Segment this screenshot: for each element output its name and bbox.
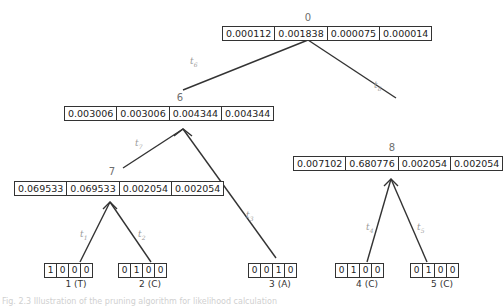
tip-5-value-A: 0 xyxy=(411,264,422,277)
node-6-value-A: 0.003006 xyxy=(65,107,116,120)
tip-4-value-A: 0 xyxy=(336,264,347,277)
tip-3-value-A: 0 xyxy=(249,264,260,277)
node-7-vector: 0.069533 0.069533 0.002054 0.002054 xyxy=(14,181,224,196)
tip-5-value-G: 0 xyxy=(434,264,446,277)
edge-label-t5: t5 xyxy=(417,222,424,234)
tip-3-value-C: 0 xyxy=(260,264,272,277)
figure-caption: Fig. 2.3 Illustration of the pruning alg… xyxy=(2,297,277,306)
edge-8-5 xyxy=(391,179,427,262)
tip-4-label: 4 (C) xyxy=(347,279,387,289)
edge-0-6 xyxy=(183,40,308,90)
tip-3-value-G: 1 xyxy=(272,264,284,277)
edge-label-t1: t1 xyxy=(80,229,87,241)
tip-1-value-C: 0 xyxy=(56,264,68,277)
tip-2-value-C: 1 xyxy=(130,264,142,277)
tip-3-vector: 0 0 1 0 xyxy=(248,263,297,278)
tip-1-value-G: 0 xyxy=(68,264,80,277)
tip-2-label: 2 (C) xyxy=(130,279,170,289)
tip-1-value-T: 0 xyxy=(80,264,92,277)
tip-2-value-T: 0 xyxy=(154,264,166,277)
node-0-value-C: 0.001838 xyxy=(274,27,326,40)
tip-4-vector: 0 1 0 0 xyxy=(335,263,384,278)
node-7-value-G: 0.002054 xyxy=(119,182,171,195)
edge-label-t8: t8 xyxy=(374,80,381,92)
tip-1-vector: 1 0 0 0 xyxy=(44,263,93,278)
node-8-vector: 0.007102 0.680776 0.002054 0.002054 xyxy=(293,156,503,171)
node-0-label: 0 xyxy=(298,12,318,23)
node-6-value-G: 0.004344 xyxy=(169,107,221,120)
node-0-value-A: 0.000112 xyxy=(223,27,274,40)
edge-label-t6: t6 xyxy=(190,56,197,68)
tip-4-value-C: 1 xyxy=(347,264,359,277)
node-8-value-C: 0.680776 xyxy=(345,157,397,170)
tip-5-value-C: 1 xyxy=(422,264,434,277)
tip-2-value-G: 0 xyxy=(142,264,154,277)
tip-3-label: 3 (A) xyxy=(260,279,300,289)
node-8-value-G: 0.002054 xyxy=(398,157,450,170)
tip-2-vector: 0 1 0 0 xyxy=(118,263,167,278)
tip-1-value-A: 1 xyxy=(45,264,56,277)
tip-3-value-T: 0 xyxy=(284,264,296,277)
node-8-value-A: 0.007102 xyxy=(294,157,345,170)
node-6-value-T: 0.004344 xyxy=(221,107,273,120)
node-0-value-T: 0.000014 xyxy=(379,27,431,40)
node-0-value-G: 0.000075 xyxy=(327,27,379,40)
node-7-value-C: 0.069533 xyxy=(66,182,118,195)
node-8-value-T: 0.002054 xyxy=(450,157,502,170)
node-6-vector: 0.003006 0.003006 0.004344 0.004344 xyxy=(64,106,274,121)
tip-5-vector: 0 1 0 0 xyxy=(410,263,459,278)
node-6-value-C: 0.003006 xyxy=(116,107,168,120)
edge-label-t2: t2 xyxy=(138,229,145,241)
edge-6-7 xyxy=(123,129,183,168)
edge-label-t7: t7 xyxy=(135,138,142,150)
tip-5-label: 5 (C) xyxy=(422,279,462,289)
node-0-vector: 0.000112 0.001838 0.000075 0.000014 xyxy=(222,26,432,41)
edge-label-t3: t3 xyxy=(246,210,253,222)
node-7-value-T: 0.002054 xyxy=(171,182,223,195)
node-6-label: 6 xyxy=(170,92,190,103)
tip-1-label: 1 (T) xyxy=(56,279,96,289)
node-8-label: 8 xyxy=(382,142,402,153)
tip-4-value-G: 0 xyxy=(359,264,371,277)
tip-2-value-A: 0 xyxy=(119,264,130,277)
tip-4-value-T: 0 xyxy=(371,264,383,277)
node-7-label: 7 xyxy=(102,166,122,177)
edge-label-t4: t4 xyxy=(366,222,373,234)
node-7-value-A: 0.069533 xyxy=(15,182,66,195)
tip-5-value-T: 0 xyxy=(446,264,458,277)
edge-8-4 xyxy=(367,179,391,262)
edge-0-8 xyxy=(308,40,396,98)
